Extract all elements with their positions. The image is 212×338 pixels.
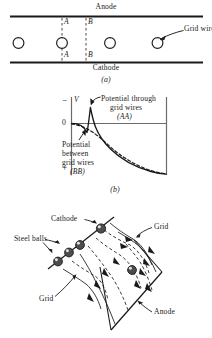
grid-bottom-leader-line xyxy=(55,276,75,297)
grid-wire-circle xyxy=(13,38,24,49)
panel-c-grid-top-label: Grid xyxy=(154,223,169,232)
steel-ball-highlight xyxy=(66,249,69,252)
grid-wires-label: Grid wires xyxy=(184,25,212,34)
panel-c-cathode-label: Cathode xyxy=(51,215,77,224)
steel-ball xyxy=(54,257,63,266)
figure-root: Anode Cathode Grid wires A A B B (a) − V… xyxy=(0,0,212,338)
grid-wire-circle xyxy=(105,38,116,49)
panel-c-anode-label: Anode xyxy=(154,308,175,317)
steel-balls-leader-arrowhead xyxy=(54,240,60,244)
anode-plane-line xyxy=(111,272,162,330)
anode-label: Anode xyxy=(86,3,126,12)
cathode-leader-arrowhead xyxy=(91,220,97,224)
panel-b-graphic xyxy=(0,95,212,195)
field-line xyxy=(80,254,115,324)
panel-c-grid-bottom-label: Grid xyxy=(39,295,54,304)
steel-ball xyxy=(65,248,74,257)
steel-ball-highlight xyxy=(129,267,132,270)
panel-c-steel-balls-label: Steel balls xyxy=(14,235,47,244)
steel-ball-highlight xyxy=(98,225,101,228)
panel-c-graphic xyxy=(0,210,212,338)
section-label-b-top: B xyxy=(88,18,93,27)
curve-aa-annotation-line3: (AA) xyxy=(117,113,132,122)
grid-plane-edge-left xyxy=(100,267,111,330)
field-line xyxy=(110,223,152,265)
section-label-a-bottom: A xyxy=(64,51,69,60)
axis-label-v: V xyxy=(74,96,79,105)
grid-wires-leader-arrowhead xyxy=(160,36,165,40)
section-label-b-bottom: B xyxy=(88,51,93,60)
panel-a-id: (a) xyxy=(86,76,126,85)
steel-ball xyxy=(76,241,85,250)
steel-ball xyxy=(128,266,137,275)
anode-leader-arrowhead xyxy=(138,301,144,305)
curve-bb-annotation-line4: (BB) xyxy=(70,168,85,177)
section-label-a-top: A xyxy=(64,18,69,27)
steel-ball xyxy=(96,224,105,233)
panel-b-id: (b) xyxy=(95,186,135,195)
steel-ball-highlight xyxy=(55,258,58,261)
field-line-converging xyxy=(63,269,101,309)
cathode-label: Cathode xyxy=(83,64,129,73)
grid-wire-circle xyxy=(57,38,68,49)
steel-ball-highlight xyxy=(77,242,80,245)
axis-label-zero: 0 xyxy=(62,119,66,128)
axis-label-minus: − xyxy=(62,96,67,105)
